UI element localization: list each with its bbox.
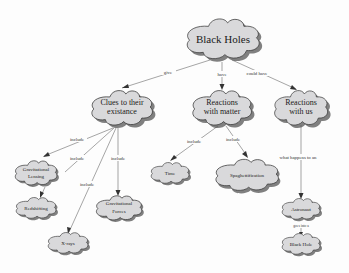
node-redshifting[interactable]: Redshifting: [16, 198, 58, 221]
edge-label-what-happens: what happens to an: [280, 155, 318, 160]
node-label: X-rays: [61, 241, 75, 246]
node-label: with matter: [204, 107, 241, 116]
node-label: existance: [107, 107, 137, 116]
node-time[interactable]: Time: [151, 163, 191, 186]
edge-label-include: include: [111, 156, 125, 161]
node-black-holes[interactable]: Black Holes: [187, 19, 262, 62]
node-black-hole[interactable]: Black Hole: [282, 234, 322, 257]
node-spaghettification[interactable]: Spaghettification: [216, 159, 280, 193]
edge-label-include: include: [80, 182, 94, 187]
node-label: Gravitational: [106, 201, 133, 206]
edges: [40, 60, 304, 236]
edge-label-include: include: [226, 137, 240, 142]
edge-label-include: include: [70, 137, 84, 142]
node-label: Reactions: [206, 98, 238, 107]
edge-label-could-have: could have: [247, 71, 268, 76]
node-reactions-with-matter[interactable]: Reactions with matter: [193, 91, 255, 129]
node-x-rays[interactable]: X-rays: [48, 233, 90, 256]
node-label: Black Holes: [196, 33, 250, 45]
node-label: Forces: [112, 209, 125, 214]
node-label: Clues to their: [100, 98, 143, 107]
node-label: with us: [289, 107, 312, 116]
node-gravitational-lensing[interactable]: Gravitational Lensing: [15, 161, 59, 187]
node-label: Time: [165, 171, 176, 176]
edge-label-include: include: [187, 139, 201, 144]
node-gravitational-forces[interactable]: Gravitational Forces: [96, 196, 143, 222]
node-label: Reactions: [285, 98, 317, 107]
edge-label-include: include: [70, 156, 84, 161]
edge-label-give: give: [164, 70, 172, 75]
node-label: Gravitational: [23, 167, 50, 172]
node-reactions-with-us[interactable]: Reactions with us: [275, 91, 331, 129]
node-label: Astronaut: [291, 207, 311, 212]
node-astronaut[interactable]: Astronaut: [282, 199, 322, 222]
node-label: Redshifting: [24, 206, 48, 211]
node-label: Black Hole: [290, 242, 313, 247]
node-clues[interactable]: Clues to their existance: [92, 91, 156, 129]
node-label: Lensing: [28, 174, 45, 179]
node-label: Spaghettification: [230, 173, 265, 178]
concept-map: give have could have include include inc…: [0, 0, 349, 273]
edge-label-have: have: [217, 72, 226, 77]
edge-label-goes-into: goes into a: [293, 224, 309, 228]
